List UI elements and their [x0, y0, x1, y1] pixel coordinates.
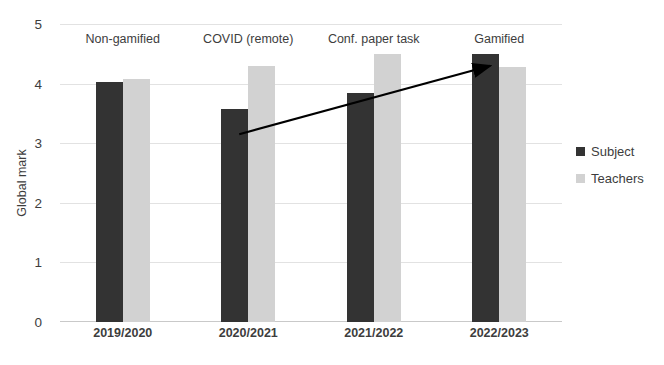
trend-arrow-icon — [0, 0, 664, 365]
legend: Subject Teachers — [576, 144, 644, 198]
legend-item-teachers[interactable]: Teachers — [576, 171, 644, 186]
bar-chart: 012345 Global mark 2019/20202020/2021202… — [0, 0, 664, 365]
legend-label-subject: Subject — [591, 144, 634, 159]
teachers-swatch-icon — [576, 174, 585, 183]
subject-swatch-icon — [576, 147, 585, 156]
legend-item-subject[interactable]: Subject — [576, 144, 644, 159]
legend-label-teachers: Teachers — [591, 171, 644, 186]
